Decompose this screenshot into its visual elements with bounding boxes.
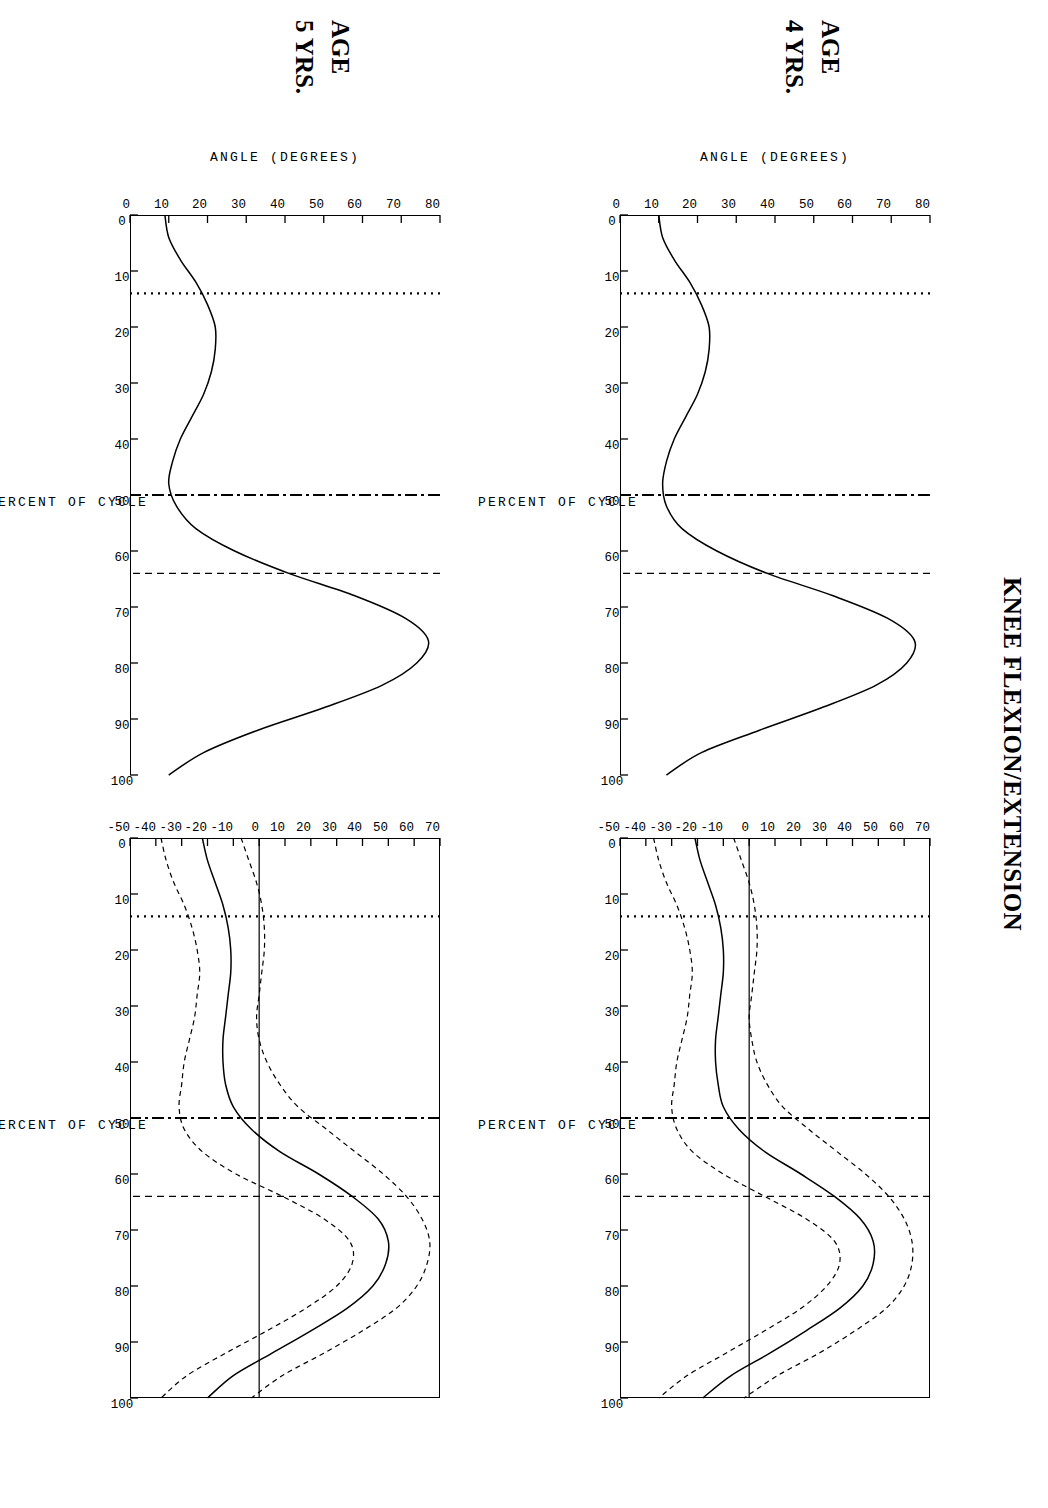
x-tick-label: 0 [118, 838, 126, 852]
y-tick-label: 20 [786, 821, 801, 835]
y-axis-title: ANGLE (DEGREES) [700, 150, 850, 165]
x-tick-label: 30 [604, 383, 619, 397]
x-tick-label: 0 [608, 215, 616, 229]
x-tick-label: 30 [114, 383, 129, 397]
y-tick-label: 40 [837, 821, 852, 835]
x-tick-label: 20 [114, 950, 129, 964]
y-tick-label: -30 [159, 821, 182, 835]
x-tick-label: 90 [114, 1342, 129, 1356]
x-tick-label: 10 [604, 894, 619, 908]
x-tick-label: 60 [604, 1174, 619, 1188]
y-tick-label: 60 [889, 821, 904, 835]
x-tick-label: 80 [604, 1286, 619, 1300]
x-tick-label: 100 [601, 775, 624, 789]
x-axis-title: PERCENT OF CYCLE [478, 1118, 638, 1133]
x-tick-label: 30 [114, 1006, 129, 1020]
x-tick-label: 0 [608, 838, 616, 852]
y-tick-label: -40 [133, 821, 156, 835]
x-tick-label: 100 [111, 775, 134, 789]
y-tick-label: 50 [799, 198, 814, 212]
y-axis-title: ANGLE (DEGREES) [210, 150, 360, 165]
y-tick-label: -20 [185, 821, 208, 835]
y-tick-label: 50 [373, 821, 388, 835]
x-tick-label: 10 [114, 894, 129, 908]
page-title: KNEE FLEXION/EXTENSION [998, 0, 1026, 1508]
figure-root: KNEE FLEXION/EXTENSION AGE 4 YRS. AGE 5 … [0, 0, 1048, 1508]
y-tick-label: 60 [837, 198, 852, 212]
x-tick-label: 30 [604, 1006, 619, 1020]
x-tick-label: 80 [604, 663, 619, 677]
y-tick-label: 30 [231, 198, 246, 212]
plot-canvas [130, 215, 440, 775]
y-tick-label: -20 [675, 821, 698, 835]
plot-canvas [130, 838, 440, 1398]
y-tick-label: 70 [386, 198, 401, 212]
y-tick-label: -40 [623, 821, 646, 835]
row-label-age-text: AGE [812, 20, 848, 170]
x-tick-label: 70 [604, 607, 619, 621]
y-tick-label: 20 [192, 198, 207, 212]
row-label-age-4: AGE 4 YRS. [776, 20, 849, 170]
x-tick-label: 70 [604, 1230, 619, 1244]
row-label-age-text: AGE [322, 20, 358, 170]
y-tick-label: 60 [399, 821, 414, 835]
plot-canvas [620, 838, 930, 1398]
x-tick-label: 60 [114, 551, 129, 565]
y-tick-label: -50 [107, 821, 130, 835]
y-tick-label: 0 [252, 821, 260, 835]
x-tick-label: 80 [114, 663, 129, 677]
x-tick-label: 70 [114, 1230, 129, 1244]
y-tick-label: 10 [270, 821, 285, 835]
y-tick-label: 50 [863, 821, 878, 835]
x-tick-label: 100 [601, 1398, 624, 1412]
y-tick-label: -10 [211, 821, 234, 835]
plot-canvas [620, 215, 930, 775]
y-tick-label: 80 [915, 198, 930, 212]
y-tick-label: -10 [701, 821, 724, 835]
y-tick-label: 50 [309, 198, 324, 212]
y-tick-label: 40 [760, 198, 775, 212]
y-tick-label: 60 [347, 198, 362, 212]
x-tick-label: 90 [604, 719, 619, 733]
plot-panel-age4-left: 010203040506070809010001020304050607080P… [620, 215, 930, 775]
y-tick-label: 10 [760, 821, 775, 835]
x-axis-title: PERCENT OF CYCLE [0, 1118, 148, 1133]
x-tick-label: 80 [114, 1286, 129, 1300]
x-tick-label: 40 [114, 1062, 129, 1076]
y-tick-label: 0 [612, 198, 620, 212]
y-tick-label: 10 [644, 198, 659, 212]
x-tick-label: 20 [114, 327, 129, 341]
x-tick-label: 20 [604, 327, 619, 341]
y-tick-label: 0 [742, 821, 750, 835]
y-tick-label: 30 [322, 821, 337, 835]
x-axis-title: PERCENT OF CYCLE [478, 495, 638, 510]
y-tick-label: 10 [154, 198, 169, 212]
row-label-years-text: 4 YRS. [776, 20, 812, 170]
y-tick-label: -30 [649, 821, 672, 835]
x-tick-label: 60 [604, 551, 619, 565]
row-label-years-text: 5 YRS. [286, 20, 322, 170]
x-tick-label: 100 [111, 1398, 134, 1412]
x-tick-label: 70 [114, 607, 129, 621]
y-tick-label: 70 [425, 821, 440, 835]
x-tick-label: 40 [114, 439, 129, 453]
plot-panel-age4-right: 0102030405060708090100-50-40-30-20-10010… [620, 838, 930, 1398]
plot-panel-age5-right: 0102030405060708090100-50-40-30-20-10010… [130, 838, 440, 1398]
y-tick-label: 70 [876, 198, 891, 212]
plot-panel-age5-left: 010203040506070809010001020304050607080P… [130, 215, 440, 775]
y-tick-label: -50 [597, 821, 620, 835]
x-tick-label: 60 [114, 1174, 129, 1188]
y-tick-label: 0 [122, 198, 130, 212]
y-tick-label: 70 [915, 821, 930, 835]
y-tick-label: 30 [721, 198, 736, 212]
y-tick-label: 80 [425, 198, 440, 212]
x-tick-label: 0 [118, 215, 126, 229]
x-tick-label: 10 [114, 271, 129, 285]
x-tick-label: 40 [604, 439, 619, 453]
y-tick-label: 30 [812, 821, 827, 835]
x-tick-label: 20 [604, 950, 619, 964]
y-tick-label: 20 [296, 821, 311, 835]
y-tick-label: 40 [347, 821, 362, 835]
x-tick-label: 90 [114, 719, 129, 733]
x-axis-title: PERCENT OF CYCLE [0, 495, 148, 510]
